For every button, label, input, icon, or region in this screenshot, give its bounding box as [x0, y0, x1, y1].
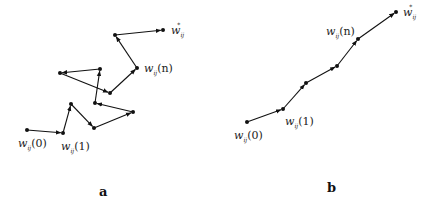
step-arrow [62, 69, 100, 73]
weight-label: wij(0) [18, 137, 47, 152]
weight-point [161, 28, 165, 32]
step-arrow [94, 113, 131, 128]
weight-point [394, 10, 398, 14]
weight-label: wij* [171, 21, 184, 39]
weight-point [131, 110, 135, 114]
weight-label: wij(n) [326, 25, 355, 40]
step-arrow [115, 30, 161, 35]
step-arrow [63, 106, 70, 133]
weight-point [356, 37, 360, 41]
step-arrow [110, 69, 135, 93]
weight-point [304, 81, 308, 85]
weight-label: wij* [403, 3, 416, 21]
weight-label: wij(n) [144, 62, 173, 77]
weight-point [245, 120, 249, 124]
step-arrow [27, 130, 61, 133]
weight-point [135, 66, 139, 70]
panel-b-direct-path: wij(0)wij(1)wij(n)wij* [234, 3, 416, 144]
weight-point [281, 107, 285, 111]
step-arrow [306, 67, 335, 83]
weight-point [335, 64, 339, 68]
weight-point [58, 71, 62, 75]
weight-point [98, 67, 102, 71]
step-arrow [283, 85, 305, 109]
panel-a-random-walk: wij(0)wij(1)wij(n)wij* [18, 21, 184, 155]
weight-point [69, 102, 73, 106]
diagram-canvas: wij(0)wij(1)wij(n)wij* wij(0)wij(1)wij(n… [0, 0, 430, 208]
panel-b-caption: b [327, 180, 336, 195]
step-arrow [116, 37, 137, 68]
weight-label: wij(1) [285, 115, 314, 130]
weight-point [93, 101, 97, 105]
weight-point [108, 91, 112, 95]
weight-label: wij(1) [61, 140, 90, 155]
step-arrow [337, 41, 357, 66]
step-arrow [71, 104, 92, 126]
step-arrow [247, 110, 281, 122]
step-arrow [358, 13, 394, 39]
weight-point [61, 131, 65, 135]
step-arrow [97, 104, 133, 112]
panel-a-caption: a [99, 184, 108, 199]
weight-point [25, 128, 29, 132]
step-arrow [60, 73, 108, 92]
weight-point [92, 126, 96, 130]
weight-point [113, 33, 117, 37]
weight-label: wij(0) [234, 129, 263, 144]
